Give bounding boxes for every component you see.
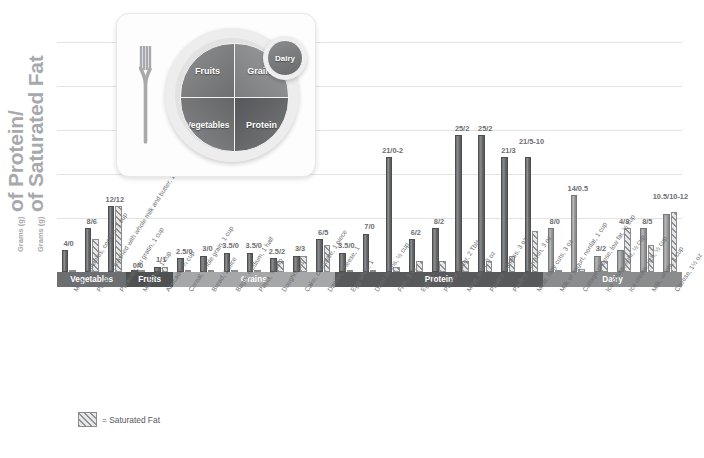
plate-dairy-cup: Dairy <box>263 36 307 80</box>
bar-value-label: 8/0 <box>550 218 560 226</box>
fork-icon <box>139 44 152 144</box>
bar-value-label: 2.5/2 <box>269 248 285 256</box>
y-axis-units-2: Grams (g) <box>36 217 45 252</box>
y-axis-label-2: of Saturated Fat <box>24 55 47 212</box>
bar-value-label: 8/5 <box>642 218 652 226</box>
bar-group: 8/6 <box>80 18 103 272</box>
y-axis-title-saturated-fat: Grams (g) of Saturated Fat <box>24 55 48 252</box>
x-axis-labels: Most vegetables, cooked, 1 cupPotatoes, … <box>0 287 690 407</box>
bar-group: 21/0-2 <box>381 18 404 272</box>
bar-value-label: 3/3 <box>295 245 305 253</box>
bar-value-label: 25/2 <box>455 125 469 133</box>
bar-value-label: 4/0 <box>63 240 73 248</box>
bar-protein <box>432 228 439 272</box>
bar-protein <box>455 135 462 272</box>
myplate-graphic: Fruits Grains Vegetables Protein Dairy <box>116 13 316 177</box>
bar-value-label: 12/12 <box>106 196 125 204</box>
bar-group: 4/0 <box>57 18 80 272</box>
bar-protein <box>478 135 485 272</box>
bar-protein <box>62 250 69 272</box>
bar-protein <box>525 157 532 272</box>
plate-label-dairy-wrap: Dairy <box>267 40 303 76</box>
bar-group: 21/3 <box>497 18 520 272</box>
bar-group: 8/2 <box>427 18 450 272</box>
bar-group: 25/2 <box>474 18 497 272</box>
bar-value-label: 8/6 <box>87 218 97 226</box>
plate-quadrant-fruits: Fruits <box>180 43 235 98</box>
plate-quadrant-vegetables: Vegetables <box>180 97 235 152</box>
bar-value-label: 21/5-10 <box>519 138 544 146</box>
bar-value-label: 8/2 <box>434 218 444 226</box>
bar-value-label: 7/0 <box>364 223 374 231</box>
bar-value-label: 21/0-2 <box>382 147 403 155</box>
bar-group: 7/0 <box>358 18 381 272</box>
plate-label-fruits: Fruits <box>195 66 220 76</box>
plate-label-vegetables: Vegetables <box>186 120 230 130</box>
bar-group: 21/5-10 <box>520 18 543 272</box>
plate-quadrant-protein: Protein <box>234 97 289 152</box>
plate-label-dairy: Dairy <box>275 54 295 63</box>
bar-group: 6/2 <box>404 18 427 272</box>
legend: = Saturated Fat <box>78 412 160 427</box>
bar-value-label: 6/5 <box>318 229 328 237</box>
bar-saturated-fat <box>439 261 446 272</box>
bar-protein <box>501 157 508 272</box>
bar-value-label: 6/2 <box>411 229 421 237</box>
bar-group: 25/2 <box>451 18 474 272</box>
saturated-fat-swatch <box>78 412 97 427</box>
bar-group: 14/0.5 <box>566 18 589 272</box>
legend-label-saturated-fat: = Saturated Fat <box>102 415 160 425</box>
plate-label-protein: Protein <box>246 120 277 130</box>
bar-value-label: 25/2 <box>478 125 492 133</box>
bar-value-label: 14/0.5 <box>568 185 589 193</box>
food-group-vegetables: Vegetables <box>57 272 126 287</box>
bar-value-label: 10.5/10-12 <box>653 193 688 201</box>
bar-saturated-fat <box>416 261 423 272</box>
bar-protein <box>386 157 393 272</box>
bar-value-label: 21/3 <box>501 147 515 155</box>
